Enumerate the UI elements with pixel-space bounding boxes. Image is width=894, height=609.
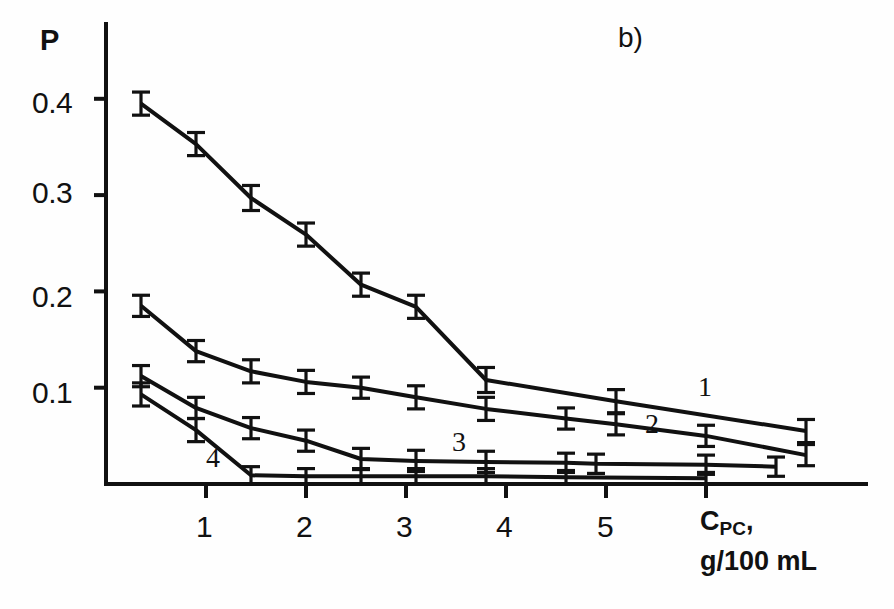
x-tick-label-5: 5 (597, 512, 614, 542)
x-axis-title-comma: , (746, 506, 754, 536)
x-tick-label-1: 1 (196, 512, 213, 542)
data-series-group (132, 92, 815, 484)
y-tick-label-0.4: 0.4 (32, 88, 72, 118)
x-tick-label-2: 2 (296, 512, 313, 542)
error-bars-2 (132, 295, 815, 465)
panel-label: b) (618, 24, 643, 52)
series-1 (132, 92, 815, 443)
x-axis-title: CPC, (700, 508, 753, 535)
curve-label-4: 4 (206, 444, 220, 472)
error-bars-1 (132, 92, 815, 443)
y-tick-label-0.2: 0.2 (32, 282, 72, 312)
x-axis-title-main: C (700, 506, 720, 536)
curve-label-1: 1 (698, 373, 712, 401)
series-2 (132, 295, 815, 465)
y-tick-label-0.3: 0.3 (32, 178, 72, 208)
x-axis-title-subscript: PC (720, 518, 746, 539)
x-axis-units: g/100 mL (700, 548, 817, 575)
plot-area (0, 0, 894, 609)
y-tick-label-0.1: 0.1 (32, 378, 72, 408)
figure-panel-b: P b) 0.4 0.3 0.2 0.1 1 2 3 4 5 CPC, g/10… (0, 0, 894, 609)
curve-label-3: 3 (452, 428, 466, 456)
x-tick-label-3: 3 (396, 512, 413, 542)
y-axis-title: P (40, 26, 59, 55)
curve-label-2: 2 (645, 410, 659, 438)
x-tick-label-4: 4 (496, 512, 513, 542)
